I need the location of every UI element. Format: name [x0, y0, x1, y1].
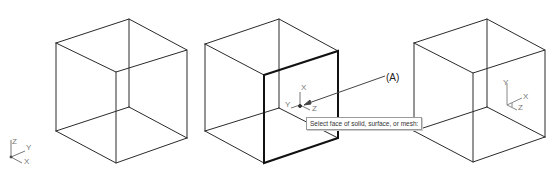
cube-3[interactable]	[414, 19, 545, 162]
ucs-world-z-label: Z	[12, 138, 17, 146]
ucs-dyn-x-label: X	[301, 84, 306, 92]
ucs-res-y-label: Y	[503, 79, 508, 87]
cube-1[interactable]	[56, 19, 187, 163]
ucs-icon-dynamic	[291, 92, 310, 110]
callout-label: (A)	[386, 72, 399, 83]
ucs-res-x-label: X	[523, 93, 528, 101]
ucs-dyn-z-label: Z	[312, 105, 317, 113]
drawing-viewport[interactable]	[0, 0, 554, 176]
ucs-world-y-label: Y	[26, 144, 31, 152]
command-tooltip: Select face of solid, surface, or mesh:	[306, 117, 422, 130]
ucs-res-z-label: Z	[518, 104, 523, 112]
callout-leader	[304, 76, 385, 105]
cube-2[interactable]	[205, 19, 338, 163]
ucs-dyn-y-label: Y	[285, 101, 290, 109]
ucs-world-x-label: X	[24, 158, 29, 166]
